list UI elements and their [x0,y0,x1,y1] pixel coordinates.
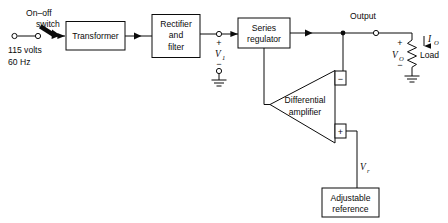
vo-minus-sign: − [397,60,402,70]
series-regulator-block: Series regulator [238,18,290,48]
differential-amplifier-label-line1: Differential [285,95,326,105]
amplifier-noninverting-sign: + [338,127,343,137]
v1-negative-terminal-icon [216,68,221,73]
io-symbol: I [427,34,432,44]
rectifier-filter-block: Rectifier and filter [152,15,200,58]
v1-plus-sign: + [216,38,221,48]
flow-arrow-icon-2 [305,30,313,37]
rectifier-label-line1: Rectifier [160,19,192,29]
differential-amplifier-block: − + Differential amplifier [270,71,346,144]
vo-symbol: V [392,50,399,60]
vo-plus-sign: + [397,38,402,48]
flow-arrow-icon-1 [134,33,142,40]
vr-subscript: r [367,167,370,174]
vr-symbol: V [360,162,367,172]
mains-voltage-label: 115 volts [8,45,42,55]
ground-icon-v1 [212,80,227,86]
v1-subscript: 1 [222,54,225,61]
adjustable-reference-label-line1: Adjustable [330,193,370,203]
ground-icon-load [405,76,420,82]
differential-amplifier-label-line2: amplifier [289,107,322,117]
resistor-icon [408,40,417,67]
on-off-switch-label-line1: On–off [26,8,52,18]
on-off-switch-label-line2: switch [36,19,60,29]
ac-source-group [12,33,41,38]
io-subscript: O [434,39,439,46]
source-terminal-icon [12,33,17,38]
load-label: Load [420,50,439,60]
rectifier-label-line3: filter [168,42,184,52]
v1-positive-terminal-icon [216,31,221,36]
v1-minus-sign: − [216,59,221,69]
transformer-block: Transformer [66,22,125,51]
output-label: Output [350,11,376,21]
adjustable-reference-label-line2: reference [332,204,369,214]
load-branch-group: I O + V O − Load [392,33,439,82]
rectifier-label-line2: and [169,30,184,40]
v1-node-group: + V 1 − [200,31,238,86]
reference-to-amplifier-wire [346,131,357,188]
amplifier-inverting-sign: − [338,74,343,84]
transformer-label: Transformer [72,31,119,41]
adjustable-reference-block: Adjustable reference [322,188,379,217]
switch-terminal-icon [35,33,40,38]
series-regulator-label-line1: Series [252,23,276,33]
output-terminal-icon [373,30,378,35]
v1-symbol: V [215,49,222,59]
series-regulator-label-line2: regulator [247,34,281,44]
power-supply-block-diagram: On–off switch 115 volts 60 Hz Transforme… [0,0,448,223]
mains-frequency-label: 60 Hz [8,57,30,67]
amplifier-to-regulator-control-wire [264,48,270,105]
